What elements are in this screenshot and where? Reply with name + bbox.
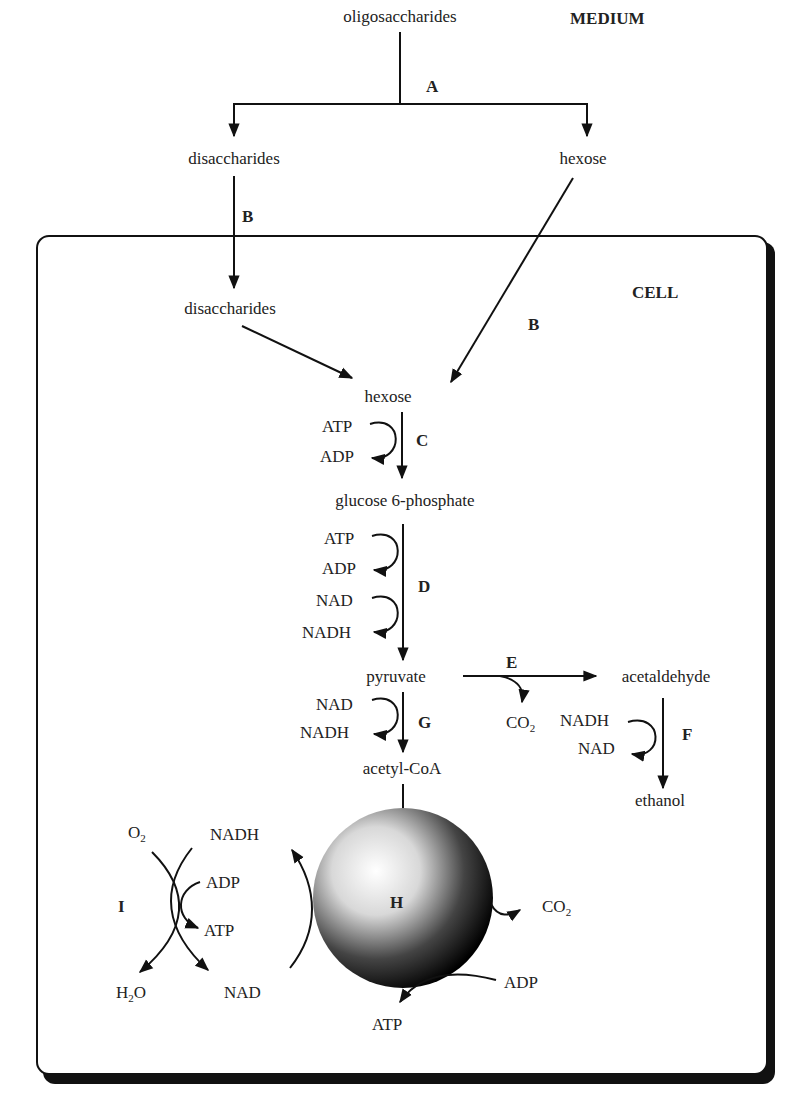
i-nad: NAD: [224, 983, 261, 1002]
g-nad: NAD: [316, 695, 353, 714]
oligosaccharides-node: oligosaccharides: [343, 7, 456, 26]
f-nadh: NADH: [560, 711, 609, 730]
medium-disaccharides-node: disaccharides: [188, 149, 280, 168]
i-atp: ATP: [204, 921, 234, 940]
medium-label: MEDIUM: [570, 9, 645, 28]
step-b2-label: B: [528, 315, 539, 334]
step-f-label: F: [682, 725, 692, 744]
step-e-label: E: [506, 653, 517, 672]
step-g-label: G: [418, 713, 431, 732]
h-atp: ATP: [372, 1015, 402, 1034]
acetaldehyde-node: acetaldehyde: [622, 667, 711, 686]
i-adp: ADP: [206, 873, 240, 892]
d-adp: ADP: [322, 559, 356, 578]
c-atp: ATP: [322, 417, 352, 436]
glucose-6-phosphate-node: glucose 6-phosphate: [335, 491, 474, 510]
cell-hexose-node: hexose: [364, 387, 411, 406]
acetyl-coa-node: acetyl-CoA: [363, 759, 442, 778]
g-nadh: NADH: [300, 723, 349, 742]
pyruvate-node: pyruvate: [366, 667, 425, 686]
metabolism-diagram: MEDIUM CELL oligosaccharides A disacchar…: [0, 0, 798, 1110]
medium-hexose-node: hexose: [559, 149, 606, 168]
ethanol-node: ethanol: [635, 791, 685, 810]
c-adp: ADP: [320, 447, 354, 466]
d-nadh: NADH: [302, 623, 351, 642]
step-d-label: D: [418, 577, 430, 596]
cell-label: CELL: [632, 283, 678, 302]
step-h-label: H: [390, 893, 403, 912]
d-atp: ATP: [324, 529, 354, 548]
i-nadh: NADH: [210, 825, 259, 844]
cell-disaccharides-node: disaccharides: [184, 299, 276, 318]
d-nad: NAD: [316, 591, 353, 610]
step-c-label: C: [416, 431, 428, 450]
step-a-label: A: [426, 77, 439, 96]
h-adp: ADP: [504, 973, 538, 992]
f-nad: NAD: [578, 739, 615, 758]
step-i-label: I: [118, 897, 125, 916]
step-b1-label: B: [242, 207, 253, 226]
step-a-split-arrow: [234, 104, 587, 136]
